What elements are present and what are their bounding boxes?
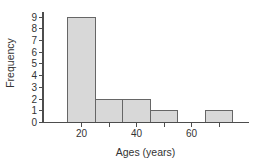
y-tick-label-8: 8: [31, 23, 37, 34]
histogram-bar-35-45: [123, 99, 151, 122]
y-tick-label-6: 6: [31, 47, 37, 58]
x-axis-title: Ages (years): [116, 146, 176, 158]
histogram-bar-45-55: [150, 111, 178, 123]
y-tick-label-9: 9: [31, 12, 37, 23]
histogram-chart: 0123456789204060Ages (years)Frequency: [0, 0, 260, 168]
y-tick-label-7: 7: [31, 35, 37, 46]
y-tick-label-3: 3: [31, 82, 37, 93]
histogram-bar-25-35: [95, 99, 123, 122]
y-tick-label-4: 4: [31, 70, 37, 81]
y-axis-title: Frequency: [4, 37, 16, 87]
x-tick-label-60: 60: [186, 128, 198, 139]
x-tick-label-40: 40: [131, 128, 143, 139]
x-tick-label-20: 20: [76, 128, 88, 139]
figure-histogram: 0123456789204060Ages (years)Frequency: [0, 0, 260, 168]
y-tick-label-0: 0: [31, 117, 37, 128]
y-tick-label-1: 1: [31, 105, 37, 116]
y-tick-label-2: 2: [31, 94, 37, 105]
histogram-bar-65-75: [205, 111, 233, 123]
y-tick-label-5: 5: [31, 58, 37, 69]
histogram-bar-15-25: [68, 17, 96, 123]
